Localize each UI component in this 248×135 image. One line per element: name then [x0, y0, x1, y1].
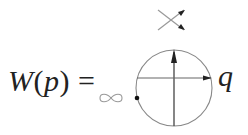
circle-diagram: [135, 49, 212, 126]
arrowhead-upper-icon: [178, 10, 185, 16]
arrowhead-lower-icon: [178, 24, 185, 30]
axis-label-q: q: [218, 59, 233, 93]
arrow-up-icon: [171, 49, 177, 63]
infinity-icon: [100, 94, 122, 102]
boundary-dot: [135, 96, 140, 101]
diagram: [0, 0, 248, 135]
crossing-icon: [158, 10, 185, 30]
